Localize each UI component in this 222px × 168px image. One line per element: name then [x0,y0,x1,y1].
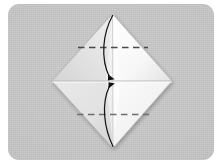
origami-figure [0,0,222,168]
screenshot-stage [0,0,222,168]
